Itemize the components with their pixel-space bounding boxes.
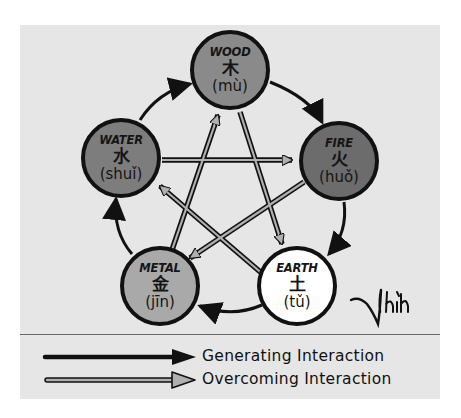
arrow-wood-to-fire xyxy=(270,82,322,122)
node-metal: METAL 金 (jīn) xyxy=(120,246,200,326)
arrow-metal-to-water xyxy=(116,199,132,254)
legend-overcoming-arrow xyxy=(47,372,195,388)
arrow-earth-to-metal xyxy=(200,305,262,312)
node-earth-hanzi: 土 xyxy=(289,275,306,294)
node-water-name: WATER xyxy=(99,134,143,147)
arrow-water-to-wood xyxy=(140,84,190,120)
arrow-fire-to-earth xyxy=(329,202,345,254)
node-fire-pinyin: (huǒ) xyxy=(319,169,359,186)
legend-generating-label: Generating Interaction xyxy=(202,347,384,365)
node-earth: EARTH 土 (tǔ) xyxy=(257,246,337,326)
node-earth-name: EARTH xyxy=(276,262,318,275)
node-water-pinyin: (shuǐ) xyxy=(100,166,143,183)
node-wood-name: WOOD xyxy=(210,46,251,59)
node-fire: FIRE 火 (huǒ) xyxy=(299,121,379,201)
node-wood: WOOD 木 (mù) xyxy=(190,30,270,110)
node-water-hanzi: 水 xyxy=(113,147,130,166)
node-wood-pinyin: (mù) xyxy=(212,78,248,95)
legend-overcoming-label: Overcoming Interaction xyxy=(202,370,392,388)
node-wood-hanzi: 木 xyxy=(222,59,239,78)
artist-signature xyxy=(345,282,425,332)
node-metal-hanzi: 金 xyxy=(152,275,169,294)
node-earth-pinyin: (tǔ) xyxy=(283,294,310,311)
node-fire-name: FIRE xyxy=(325,137,353,150)
node-metal-pinyin: (jīn) xyxy=(145,294,175,311)
legend-divider xyxy=(20,334,440,335)
node-water: WATER 水 (shuǐ) xyxy=(81,118,161,198)
node-fire-hanzi: 火 xyxy=(331,150,348,169)
node-metal-name: METAL xyxy=(139,262,180,275)
legend-generating-arrow xyxy=(45,349,196,365)
